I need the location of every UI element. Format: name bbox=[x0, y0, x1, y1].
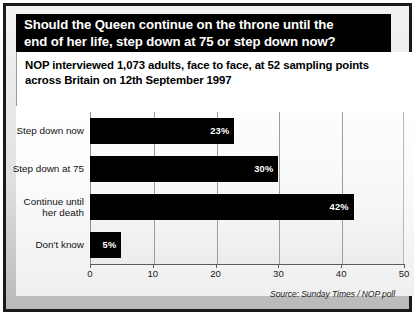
bar-value-label: 30% bbox=[254, 164, 278, 174]
x-axis-line bbox=[90, 264, 405, 265]
chart-title-line-1: Should the Queen continue on the throne … bbox=[24, 16, 383, 33]
chart-title: Should the Queen continue on the throne … bbox=[16, 14, 391, 52]
gridline bbox=[279, 112, 280, 264]
chart-subtitle-line-2: across Britain on 12th September 1997 bbox=[25, 73, 406, 88]
chart-title-line-2: end of her life, step down at 75 or step… bbox=[24, 33, 383, 50]
x-tick-label: 50 bbox=[399, 268, 410, 279]
bar: 5% bbox=[90, 232, 121, 258]
bar: 30% bbox=[90, 156, 278, 182]
chart-image: Should the Queen continue on the throne … bbox=[0, 0, 418, 321]
x-tick-label: 20 bbox=[210, 268, 221, 279]
chart-frame: Should the Queen continue on the throne … bbox=[3, 3, 412, 312]
bar-chart: 01020304050 23%30%42%5% Step down nowSte… bbox=[16, 106, 414, 296]
x-tick-label: 30 bbox=[273, 268, 284, 279]
bar-value-label: 23% bbox=[210, 126, 234, 136]
source-note: Source: Sunday Times / NOP poll bbox=[270, 289, 395, 299]
category-label: Step down at 75 bbox=[0, 163, 84, 175]
bar-value-label: 5% bbox=[103, 240, 122, 250]
gridline bbox=[342, 112, 343, 264]
chart-subtitle: NOP interviewed 1,073 adults, face to fa… bbox=[16, 52, 414, 114]
x-tick-label: 40 bbox=[336, 268, 347, 279]
bar: 42% bbox=[90, 194, 354, 220]
x-tick-label: 10 bbox=[147, 268, 158, 279]
category-label: Step down now bbox=[0, 125, 84, 137]
category-label: Don't know bbox=[0, 239, 84, 251]
bar-value-label: 42% bbox=[330, 202, 354, 212]
x-tick-label: 0 bbox=[87, 268, 92, 279]
category-label: Continue until her death bbox=[0, 196, 84, 219]
bar: 23% bbox=[90, 118, 234, 144]
chart-subtitle-line-1: NOP interviewed 1,073 adults, face to fa… bbox=[25, 58, 406, 73]
